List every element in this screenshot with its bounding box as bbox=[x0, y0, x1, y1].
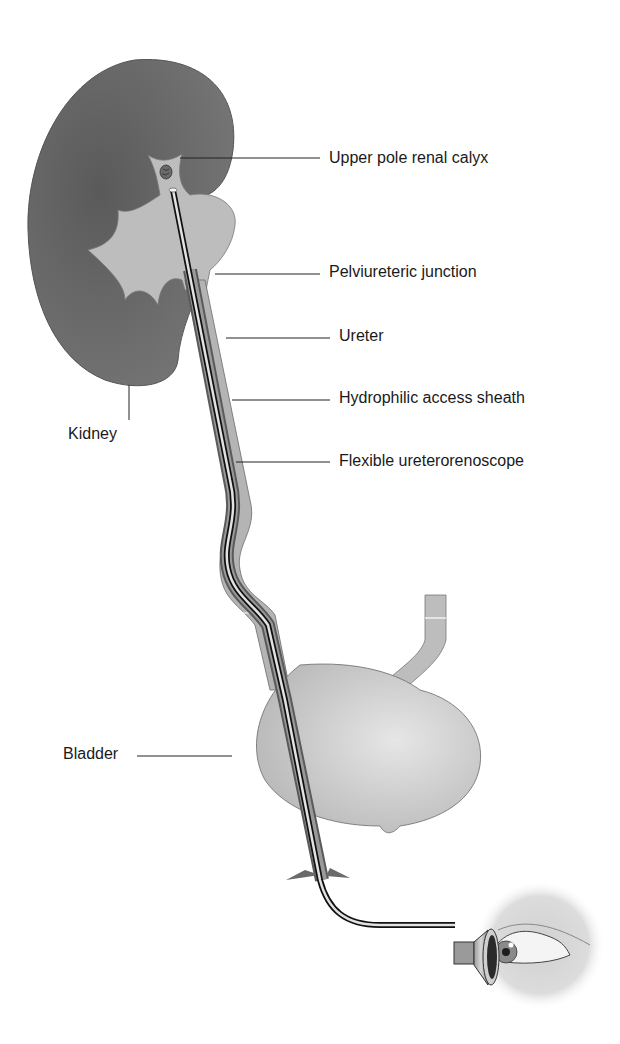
ureter bbox=[185, 280, 446, 700]
ureteroscopy-diagram bbox=[0, 0, 620, 1044]
label-ureterorenoscope: Flexible ureterorenoscope bbox=[339, 452, 524, 470]
label-upper-pole-calyx: Upper pole renal calyx bbox=[329, 149, 488, 167]
label-kidney: Kidney bbox=[68, 425, 117, 443]
stone-icon bbox=[160, 165, 172, 179]
label-ureter: Ureter bbox=[339, 327, 383, 345]
label-pelviureteric-junction: Pelviureteric junction bbox=[329, 263, 477, 281]
label-access-sheath: Hydrophilic access sheath bbox=[339, 389, 525, 407]
label-bladder: Bladder bbox=[63, 745, 118, 763]
